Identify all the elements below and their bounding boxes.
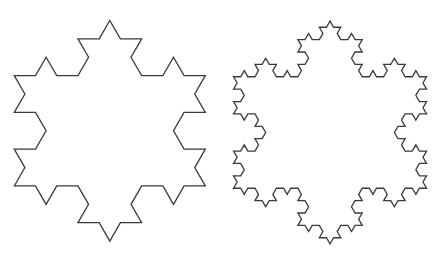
koch-snowflake-left (14, 20, 205, 241)
koch-snowflake-right (234, 21, 427, 244)
koch-snowflakes-figure (0, 0, 440, 259)
